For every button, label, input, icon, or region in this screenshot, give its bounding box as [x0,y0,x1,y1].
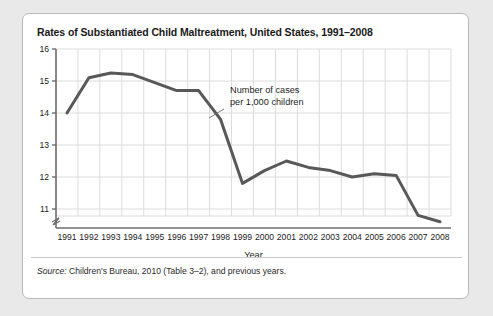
x-tick-label: 2008 [430,232,449,242]
axis-break-icon [52,218,60,225]
x-tick-label: 1992 [79,232,98,242]
x-tick-label: 2006 [387,232,406,242]
source-text: Children's Bureau, 2010 (Table 3–2), and… [67,266,286,276]
source-note: Source: Children's Bureau, 2010 (Table 3… [37,266,286,276]
x-tick-label: 2002 [299,232,318,242]
x-tick-label: 1996 [167,232,186,242]
figure-panel: Rates of Substantiated Child Maltreatmen… [22,13,469,299]
x-tick-label: 1995 [145,232,164,242]
y-tick-label: 11 [40,204,49,214]
y-tick-label: 13 [39,140,49,150]
annotation-line-2: per 1,000 children [230,97,304,107]
y-tick-label: 16 [39,44,49,54]
x-tick-label: 1991 [57,232,76,242]
footer-divider [31,257,462,258]
y-tick-label: 15 [39,76,49,86]
y-tick-label: 12 [39,172,49,182]
y-tick-label: 14 [39,108,49,118]
x-axis-title: Year [244,250,263,260]
x-tick-label: 2000 [255,232,274,242]
x-tick-label: 1994 [123,232,142,242]
x-tick-label: 2004 [343,232,362,242]
x-tick-label: 1999 [233,232,252,242]
x-tick-label: 2001 [277,232,296,242]
x-tick-label: 2005 [365,232,384,242]
annotation-line-1: Number of cases [230,85,300,95]
x-tick-label: 1997 [189,232,208,242]
source-label: Source: [37,266,67,276]
x-tick-label: 1998 [211,232,230,242]
x-tick-label: 1993 [101,232,120,242]
x-tick-label: 2007 [409,232,428,242]
x-tick-label: 2003 [321,232,340,242]
